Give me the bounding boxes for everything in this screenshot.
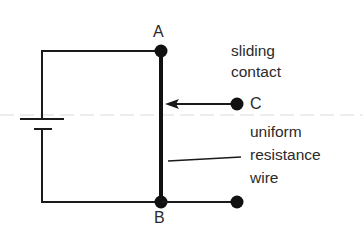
label-resistance: resistance (250, 146, 321, 164)
sliding-contact (165, 98, 244, 111)
label-a: A (153, 23, 164, 41)
terminal-b-out-dot (231, 196, 244, 209)
node-a-dot (155, 45, 168, 58)
wire-label-leader (168, 157, 241, 161)
circuit-drawing (0, 0, 363, 231)
label-wire: wire (250, 169, 278, 187)
top-wire (42, 51, 161, 119)
label-b: B (154, 209, 165, 227)
terminal-c-dot (231, 98, 244, 111)
label-c: C (250, 95, 262, 113)
label-sliding: sliding (231, 42, 275, 60)
cell-loop (20, 51, 161, 202)
label-uniform: uniform (250, 123, 302, 141)
bottom-wire (42, 129, 161, 202)
label-contact: contact (231, 63, 281, 81)
circuit-diagram: A B C sliding contact uniform resistance… (0, 0, 363, 231)
